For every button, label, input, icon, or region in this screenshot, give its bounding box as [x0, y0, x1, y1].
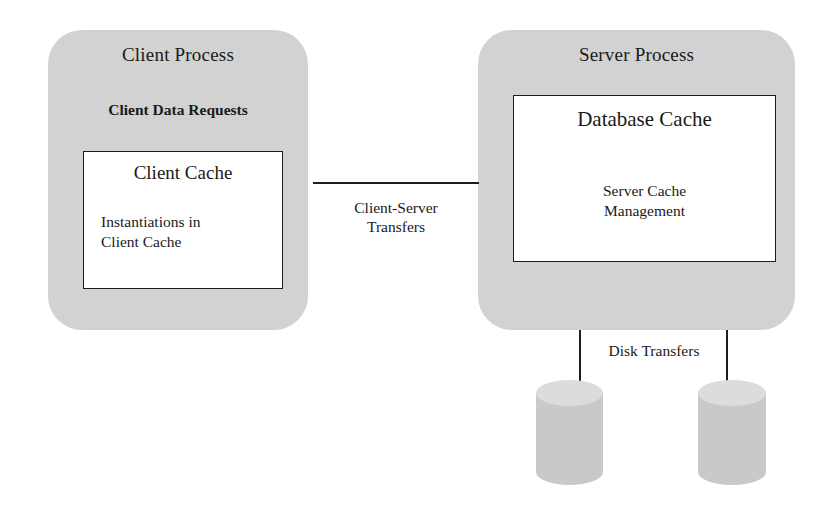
client-cache-title: Client Cache	[84, 162, 282, 184]
disk-transfers-label: Disk Transfers	[584, 341, 724, 360]
cylinder-shape	[536, 380, 603, 485]
client-cache-description-line-2: Client Cache	[101, 232, 200, 252]
client-process-title: Client Process	[48, 44, 308, 66]
database-disk-icon-right	[698, 380, 766, 485]
client-cache-description-line-1: Instantiations in	[101, 212, 200, 232]
database-disk-icon-left	[536, 380, 603, 485]
client-data-requests-label: Client Data Requests	[48, 101, 308, 119]
server-cache-description-line-2: Management	[514, 201, 775, 221]
database-cache-box: Database Cache Server Cache Management	[513, 95, 776, 262]
database-cache-title: Database Cache	[514, 107, 775, 132]
diagram-canvas: Client Process Client Data Requests Clie…	[0, 0, 837, 517]
client-server-transfers-label: Client-Server Transfers	[313, 198, 479, 237]
client-server-transfers-line-1: Client-Server	[313, 198, 479, 217]
client-server-transfers-line-2: Transfers	[313, 217, 479, 236]
client-cache-box: Client Cache Instantiations in Client Ca…	[83, 151, 283, 289]
client-server-connector-line	[313, 182, 479, 184]
cylinder-shape	[698, 380, 766, 485]
server-cache-description: Server Cache Management	[514, 181, 775, 221]
client-cache-description: Instantiations in Client Cache	[101, 212, 200, 252]
server-cache-description-line-1: Server Cache	[514, 181, 775, 201]
server-process-title: Server Process	[478, 44, 795, 66]
